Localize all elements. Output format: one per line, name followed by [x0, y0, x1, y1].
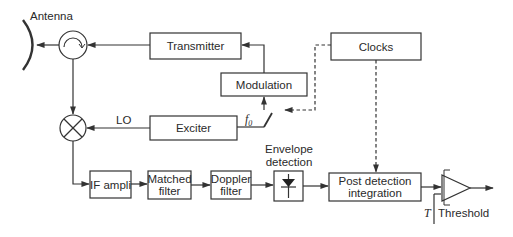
f0-label: f0 [245, 112, 252, 128]
threshold-label: Threshold [438, 207, 489, 219]
svg-text:filter: filter [159, 185, 181, 197]
clocks-block: Clocks [331, 33, 421, 60]
envelope-detection-block [274, 171, 303, 201]
svg-text:filter: filter [220, 185, 242, 197]
svg-text:integration: integration [348, 187, 402, 199]
exciter-block: Exciter [150, 116, 237, 140]
radar-block-diagram: Antenna Transmitter Modulation Clocks f0… [0, 0, 513, 237]
envelope-label-1: Envelope [265, 143, 313, 155]
circulator-icon [59, 31, 87, 59]
svg-text:Post detection: Post detection [339, 175, 412, 187]
svg-text:Matched: Matched [147, 173, 191, 185]
threshold-t-label: T [424, 206, 432, 220]
svg-text:Clocks: Clocks [359, 41, 394, 53]
svg-text:Modulation: Modulation [236, 79, 292, 91]
modulation-block: Modulation [221, 73, 307, 96]
lo-label: LO [116, 114, 131, 126]
arrow-modulation-to-transmitter [242, 45, 264, 73]
svg-text:IF ampli: IF ampli [90, 179, 131, 191]
doppler-filter-block: Doppler filter [211, 171, 251, 199]
antenna-label: Antenna [30, 10, 73, 22]
switch-icon [264, 97, 272, 127]
transmitter-block: Transmitter [150, 33, 241, 59]
matched-filter-block: Matched filter [147, 171, 191, 199]
arrow-mixer-to-if-ampli [73, 141, 89, 184]
svg-text:Exciter: Exciter [176, 122, 211, 134]
svg-text:Doppler: Doppler [211, 173, 251, 185]
antenna-icon [23, 20, 33, 70]
mixer-icon [60, 115, 86, 141]
post-detection-integration-block: Post detection integration [329, 173, 421, 201]
svg-text:Transmitter: Transmitter [167, 40, 225, 52]
if-ampli-block: IF ampli [90, 171, 131, 198]
envelope-label-2: detection [266, 156, 313, 168]
